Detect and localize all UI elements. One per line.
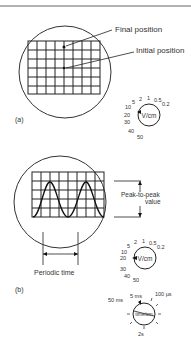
final-position-label: Final position (115, 25, 162, 34)
svg-text:1: 1 (142, 238, 145, 244)
svg-text:20: 20 (124, 112, 130, 118)
panel-label-b: (b) (15, 286, 24, 294)
svg-text:30: 30 (120, 266, 126, 272)
svg-text:50: 50 (133, 277, 139, 283)
time-dial-b[interactable]: time/cm 5 ms 100 µs 50 ms 2s (108, 291, 172, 337)
peak-to-peak-value-label: value (145, 198, 161, 205)
volts-dial-b[interactable]: V/cm 1 0.5 0.2 2 5 10 20 30 40 50 (120, 238, 165, 283)
figure-a: Final position Initial position (a) V/cm… (15, 25, 184, 140)
final-dot (63, 46, 66, 49)
svg-text:V/cm: V/cm (142, 112, 157, 119)
svg-text:20: 20 (120, 255, 126, 261)
svg-text:0.2: 0.2 (157, 244, 165, 250)
svg-text:V/cm: V/cm (138, 255, 153, 262)
svg-text:2: 2 (134, 239, 137, 245)
figure-b: Peak-to-peak value Periodic time (b) V/c… (14, 156, 172, 337)
svg-text:40: 40 (124, 273, 130, 279)
oscilloscope-diagram: Final position Initial position (a) V/cm… (0, 0, 191, 344)
initial-dot (63, 67, 65, 69)
svg-text:2: 2 (139, 96, 142, 102)
svg-text:0.5: 0.5 (149, 240, 157, 246)
svg-text:50 ms: 50 ms (108, 297, 123, 303)
svg-text:0.5: 0.5 (154, 97, 162, 103)
svg-text:5: 5 (132, 99, 135, 105)
screen-a (19, 26, 111, 118)
svg-text:40: 40 (128, 128, 134, 134)
svg-text:100 µs: 100 µs (155, 291, 172, 297)
svg-text:5 ms: 5 ms (130, 293, 142, 299)
svg-text:10: 10 (125, 104, 131, 110)
panel-label-a: (a) (15, 116, 24, 124)
svg-text:5: 5 (127, 243, 130, 249)
svg-text:30: 30 (124, 119, 130, 125)
screen-b (14, 156, 106, 248)
svg-text:0.2: 0.2 (162, 101, 170, 107)
svg-text:1: 1 (147, 95, 150, 101)
initial-position-label: Initial position (136, 46, 184, 55)
svg-text:2s: 2s (138, 331, 144, 337)
svg-text:50: 50 (137, 134, 143, 140)
volts-dial-a[interactable]: V/cm 1 0.5 0.2 2 5 10 20 30 40 50 (124, 95, 170, 140)
periodic-time-label: Periodic time (34, 269, 75, 276)
